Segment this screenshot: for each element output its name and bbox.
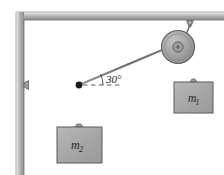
mass1-subscript: 1 bbox=[196, 98, 200, 107]
angle-label: 30° bbox=[105, 73, 122, 85]
ceiling-pulley bbox=[162, 31, 195, 64]
mass2-subscript: 2 bbox=[79, 145, 83, 154]
hanging-block-mass1: m 1 bbox=[174, 82, 213, 113]
ceiling-beam bbox=[16, 12, 224, 20]
diagram-svg: 30° m 1 bbox=[0, 0, 224, 175]
left-wall bbox=[16, 12, 24, 175]
physics-diagram-canvas: 30° m 1 bbox=[0, 0, 224, 175]
hanging-block-mass2: m 2 bbox=[57, 127, 102, 163]
